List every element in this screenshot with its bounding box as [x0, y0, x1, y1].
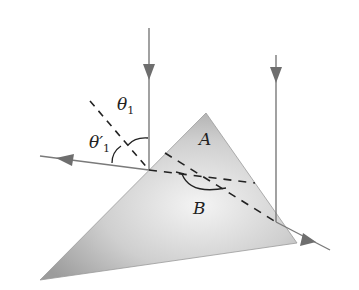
- arrow-down-icon: [270, 67, 282, 83]
- arrow-down-icon: [143, 64, 155, 80]
- reflected-ray: [40, 154, 149, 170]
- diagram-canvas: [0, 0, 359, 290]
- angle-arc-theta1-prime: [112, 146, 121, 163]
- theta1-prime-subscript: 1: [103, 142, 110, 155]
- theta1-prime-symbol: θ′: [89, 132, 103, 152]
- incident-ray-right: [270, 55, 282, 222]
- label-theta1-prime: θ′1: [89, 134, 110, 154]
- theta1-subscript: 1: [127, 104, 134, 117]
- prism-diagram: θ1 θ′1 A B: [0, 0, 359, 290]
- label-vertex-A: A: [199, 131, 211, 148]
- label-theta1: θ1: [117, 96, 134, 116]
- prism: [40, 113, 297, 280]
- theta1-symbol: θ: [117, 94, 127, 114]
- arrow-left-icon: [56, 154, 74, 166]
- label-angle-B: B: [193, 200, 206, 217]
- incident-ray-left: [143, 28, 155, 170]
- angle-arc-theta1: [128, 138, 148, 145]
